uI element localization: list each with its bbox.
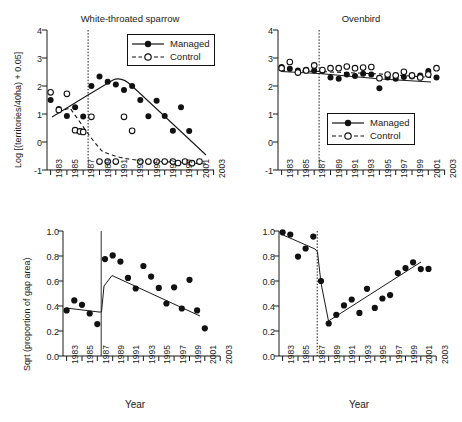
xtick-gap-managed: 1997 — [178, 345, 188, 364]
xtick-sparrow: 2003 — [217, 159, 227, 178]
xtick-ovenbird: 1993 — [366, 159, 376, 178]
xtick-ovenbird: 2003 — [448, 159, 458, 178]
legend-label-managed: Managed — [170, 38, 210, 49]
xtick-ovenbird: 1995 — [383, 159, 393, 178]
panel-gap-area-managed: Sqrt (proportion of gap area) 1.0 0.8 0.… — [0, 211, 231, 422]
xtick-gap-control: 1993 — [363, 345, 373, 364]
xtick-ovenbird: 2001 — [432, 159, 442, 178]
xtick-ovenbird: 1999 — [415, 159, 425, 178]
series-gap-points — [64, 252, 208, 331]
panel-white-throated-sparrow: White-throated sparrow Log [(territories… — [0, 0, 231, 211]
xtick-gap-managed: 1983 — [70, 345, 80, 364]
legend-symbol-control — [331, 130, 365, 142]
plot-area-ovenbird — [231, 0, 462, 211]
xtick-ovenbird: 1985 — [301, 159, 311, 178]
xtick-sparrow: 1995 — [152, 159, 162, 178]
legend-ovenbird: Managed Control — [327, 113, 415, 145]
xtick-sparrow: 1983 — [54, 159, 64, 178]
xtick-ovenbird: 1987 — [317, 159, 327, 178]
legend-symbol-managed — [331, 117, 365, 129]
xtick-gap-control: 1987 — [317, 345, 327, 364]
xtick-gap-managed: 1989 — [116, 345, 126, 364]
xtick-sparrow: 1985 — [70, 159, 80, 178]
series-control-points — [48, 90, 203, 167]
legend-row-managed: Managed — [331, 116, 410, 129]
panel-ovenbird: Ovenbird 4 3 2 1 0 -1 — [231, 0, 462, 211]
legend-row-managed: Managed — [131, 37, 210, 50]
xlabel-gap-managed: Year — [95, 399, 175, 410]
xtick-gap-managed: 1993 — [147, 345, 157, 364]
xtick-sparrow: 2001 — [201, 159, 211, 178]
legend-sparrow: Managed Control — [127, 34, 215, 66]
series-managed-points — [279, 64, 440, 91]
xtick-gap-managed: 1991 — [131, 345, 141, 364]
xtick-gap-managed: 1985 — [85, 345, 95, 364]
xtick-gap-control: 1991 — [347, 345, 357, 364]
legend-label-managed: Managed — [370, 117, 410, 128]
xtick-sparrow: 1991 — [119, 159, 129, 178]
xtick-sparrow: 1987 — [86, 159, 96, 178]
xtick-gap-control: 1997 — [394, 345, 404, 364]
xlabel-gap-control: Year — [319, 399, 399, 410]
legend-row-control: Control — [331, 129, 410, 142]
xtick-ovenbird: 1997 — [399, 159, 409, 178]
xtick-gap-control: 1989 — [332, 345, 342, 364]
series-control-points — [279, 59, 440, 81]
xtick-gap-control: 2001 — [424, 345, 434, 364]
series-managed-points — [48, 74, 193, 135]
plot-area-sparrow — [0, 0, 231, 211]
xtick-sparrow: 1997 — [168, 159, 178, 178]
xtick-ovenbird: 1989 — [334, 159, 344, 178]
figure-container: White-throated sparrow Log [(territories… — [0, 0, 462, 422]
xtick-ovenbird: 1991 — [350, 159, 360, 178]
xtick-sparrow: 1993 — [135, 159, 145, 178]
legend-row-control: Control — [131, 50, 210, 63]
xtick-gap-managed: 2001 — [208, 345, 218, 364]
xtick-gap-control: 2003 — [440, 345, 450, 364]
xtick-gap-managed: 1999 — [193, 345, 203, 364]
xtick-ovenbird: 1983 — [285, 159, 295, 178]
xtick-gap-control: 1995 — [378, 345, 388, 364]
legend-symbol-managed — [131, 38, 165, 50]
xtick-sparrow: 1989 — [103, 159, 113, 178]
xtick-gap-control: 1985 — [301, 345, 311, 364]
xtick-sparrow: 1999 — [184, 159, 194, 178]
xtick-gap-control: 1999 — [409, 345, 419, 364]
xtick-gap-managed: 1987 — [101, 345, 111, 364]
plot-area-gap-control — [231, 211, 462, 422]
panel-gap-area-control: 1.0 0.8 0.6 0.4 0.2 0.0 — [231, 211, 462, 422]
legend-label-control: Control — [370, 130, 401, 141]
xtick-gap-control: 1983 — [286, 345, 296, 364]
legend-symbol-control — [131, 51, 165, 63]
plot-area-gap-managed — [0, 211, 231, 422]
legend-label-control: Control — [170, 51, 201, 62]
xtick-gap-managed: 1995 — [162, 345, 172, 364]
